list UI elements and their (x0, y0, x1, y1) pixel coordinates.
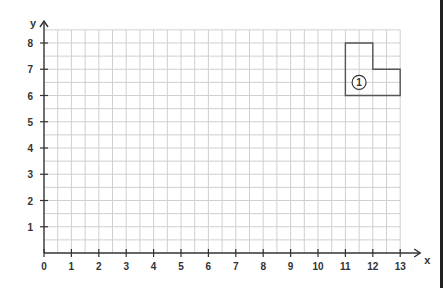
grid-lines (44, 30, 400, 253)
y-tick-label: 6 (27, 91, 33, 102)
x-tick-label: 13 (395, 261, 407, 272)
axes: xy (30, 17, 431, 266)
x-tick-label: 0 (41, 261, 47, 272)
y-tick-label: 2 (27, 196, 33, 207)
axis-ticks: 01234567891011121312345678 (27, 38, 406, 272)
y-tick-label: 4 (27, 143, 33, 154)
page-border-right (440, 0, 443, 288)
x-tick-label: 9 (288, 261, 294, 272)
x-tick-label: 3 (123, 261, 129, 272)
y-axis-label: y (30, 17, 37, 29)
x-tick-label: 7 (233, 261, 239, 272)
y-tick-label: 5 (27, 117, 33, 128)
x-tick-label: 11 (340, 261, 351, 272)
y-tick-label: 3 (27, 169, 33, 180)
coordinate-plane: xy 01234567891011121312345678 1 (0, 0, 448, 288)
x-axis-label: x (424, 254, 431, 266)
x-tick-label: 10 (312, 261, 324, 272)
x-tick-label: 6 (206, 261, 212, 272)
y-tick-label: 8 (27, 38, 33, 49)
shape-label: 1 (356, 77, 362, 88)
x-tick-label: 5 (178, 261, 184, 272)
y-tick-label: 7 (27, 64, 33, 75)
x-tick-label: 2 (96, 261, 102, 272)
x-tick-label: 4 (151, 261, 157, 272)
x-tick-label: 1 (69, 261, 75, 272)
x-tick-label: 8 (260, 261, 266, 272)
y-tick-label: 1 (27, 222, 33, 233)
x-tick-label: 12 (367, 261, 379, 272)
